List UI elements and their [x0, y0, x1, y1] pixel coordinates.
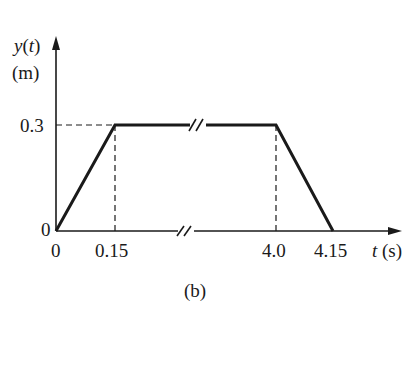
trapezoid-plot: [0, 0, 415, 378]
y-axis-label: y(t): [14, 36, 40, 55]
x-axis-arrow-icon: [388, 227, 402, 235]
y-tick-0.3: 0.3: [20, 116, 44, 135]
y-tick-0: 0: [41, 220, 51, 239]
x-tick-0: 0: [51, 241, 61, 260]
x-axis-label: t (s): [372, 241, 402, 260]
signal-line: [56, 125, 333, 231]
x-tick-0.15: 0.15: [95, 241, 128, 260]
x-tick-4.0: 4.0: [262, 241, 286, 260]
y-axis-arrow-icon: [52, 36, 60, 50]
figure-caption: (b): [184, 281, 206, 300]
x-tick-4.15: 4.15: [314, 241, 347, 260]
y-axis-unit: (m): [12, 63, 39, 82]
